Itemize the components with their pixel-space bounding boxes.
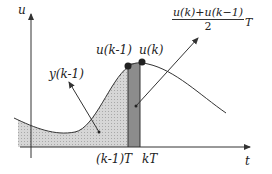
formula-denominator: 2: [205, 20, 212, 33]
point-u-k-1: [125, 63, 132, 70]
trapezoid-formula: u(k)+u(k−1) 2 T: [172, 6, 252, 33]
x-axis-label: t: [245, 154, 250, 168]
arrow-y-k-1: [69, 82, 99, 132]
trapezoid-strip: [128, 63, 140, 147]
tick-k-label: kT: [142, 152, 157, 166]
y-axis-label: u: [18, 3, 26, 17]
tick-k-1-label: (k-1)T: [96, 152, 132, 166]
u-k-label: u(k): [139, 43, 163, 57]
point-u-k: [139, 59, 146, 66]
formula-numerator: u(k)+u(k−1): [172, 6, 244, 20]
u-k-1-label: u(k-1): [96, 43, 132, 57]
formula-suffix: T: [245, 16, 252, 29]
y-k-1-label: y(k-1): [49, 67, 84, 81]
